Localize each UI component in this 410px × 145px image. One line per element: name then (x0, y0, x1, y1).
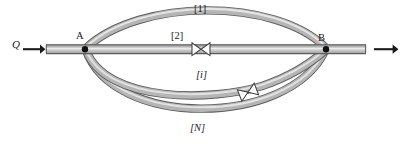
branch-label-i: [i] (196, 70, 207, 81)
node-B-marker (323, 46, 329, 52)
branch-label-1: [1] (194, 4, 206, 15)
node-label-A: A (76, 31, 84, 42)
node-A-marker (82, 46, 88, 52)
branch-label-N: [N] (190, 123, 205, 134)
branch-1-pipe (86, 9, 325, 48)
node-label-B: B (318, 33, 325, 44)
outlet-flow-arrow-icon (374, 45, 399, 54)
pipe-network-diagram: [1] [2] [i] [N] A B Q (0, 0, 410, 145)
inlet-pipe (46, 45, 86, 54)
inlet-flow-arrow-icon (23, 45, 45, 54)
inlet-flow-label: Q (12, 39, 20, 50)
outlet-pipe (325, 45, 366, 54)
branch-label-2: [2] (171, 31, 183, 42)
